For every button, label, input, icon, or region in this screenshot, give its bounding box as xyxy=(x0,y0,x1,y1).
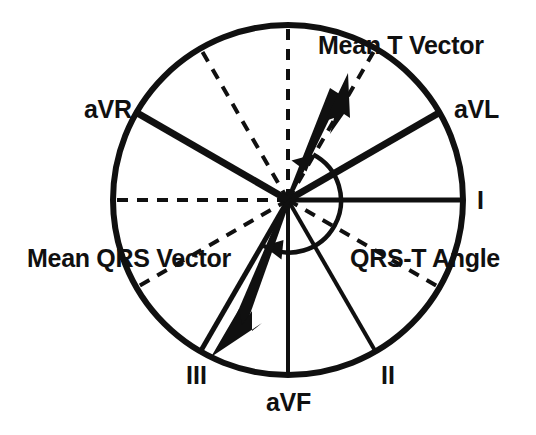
label-lead-aVF: aVF xyxy=(266,390,311,415)
label-mean-qrs-vector: Mean QRS Vector xyxy=(27,246,231,271)
label-lead-III: III xyxy=(186,363,207,388)
axis-aVR xyxy=(136,113,288,201)
label-lead-II: II xyxy=(381,363,395,388)
mean-qrs-vector-group xyxy=(211,193,293,357)
hexaxial-diagram: aVR aVL I II III aVF Mean T Vector Mean … xyxy=(0,0,536,435)
axis-II xyxy=(288,200,376,352)
label-qrs-t-angle: QRS-T Angle xyxy=(350,246,500,271)
label-lead-aVR: aVR xyxy=(84,97,132,122)
label-lead-I: I xyxy=(477,188,484,213)
label-mean-t-vector: Mean T Vector xyxy=(318,33,484,58)
label-lead-aVL: aVL xyxy=(454,97,499,122)
hexaxial-figure-svg xyxy=(0,0,536,435)
